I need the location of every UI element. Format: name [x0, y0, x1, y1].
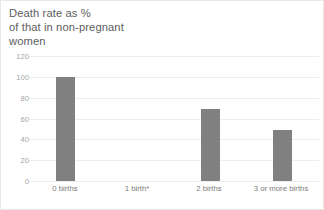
bar-slot-1-birth: [102, 56, 175, 181]
y-axis-tick-100: 100: [0, 72, 29, 81]
chart-title: Death rate as % of that in non-pregnant …: [9, 6, 259, 49]
y-axis-tick-20: 20: [0, 156, 29, 165]
bar-0-births[interactable]: [56, 77, 75, 181]
x-axis-label-2-births: 2 births: [173, 182, 245, 196]
bar-slot-3-or-more-births: [247, 56, 320, 181]
bar-2-births[interactable]: [201, 109, 220, 181]
x-axis-label-3-or-more-births: 3 or more births: [245, 182, 317, 196]
x-axis-label-1-birth: 1 birth*: [101, 182, 173, 196]
plot-area-wrapper: 120 100 80 60 40 20 0: [1, 56, 324, 181]
y-axis-tick-80: 80: [0, 93, 29, 102]
cutoff-footnote-text: [29, 201, 317, 210]
y-axis-tick-60: 60: [0, 114, 29, 123]
bars-group: [29, 56, 319, 181]
x-axis-label-0-births: 0 births: [29, 182, 101, 196]
y-axis-tick-0: 0: [0, 177, 29, 186]
bar-slot-0-births: [29, 56, 102, 181]
bar-3-or-more-births[interactable]: [273, 130, 292, 181]
x-axis-labels: 0 births 1 birth* 2 births 3 or more bir…: [29, 182, 317, 196]
y-axis-tick-40: 40: [0, 135, 29, 144]
bar-slot-2-births: [174, 56, 247, 181]
y-axis-tick-120: 120: [0, 52, 29, 61]
chart-container: Death rate as % of that in non-pregnant …: [0, 0, 324, 210]
